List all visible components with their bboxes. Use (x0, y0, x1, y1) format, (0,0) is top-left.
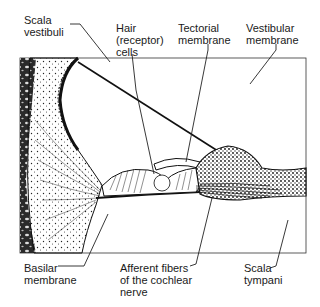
label-tectorial-membrane: Tectorial membrane (178, 22, 231, 46)
label-vestibular-membrane: Vestibular membrane (246, 22, 299, 46)
vestibular-membrane-line (78, 62, 232, 160)
label-afferent-fibers: Afferent fibers of the cochlear nerve (120, 262, 192, 298)
label-scala-tympani: Scala tympani (244, 262, 283, 286)
label-scala-vestibuli: Scala vestibuli (24, 14, 64, 38)
spiral-ligament (28, 58, 102, 253)
label-basilar-membrane: Basilar membrane (24, 262, 77, 286)
label-hair-cells: Hair (receptor) cells (116, 22, 164, 58)
leader-lines (58, 24, 288, 268)
cochlea-diagram: Scala vestibuli Hair (receptor) cells Te… (0, 0, 320, 307)
